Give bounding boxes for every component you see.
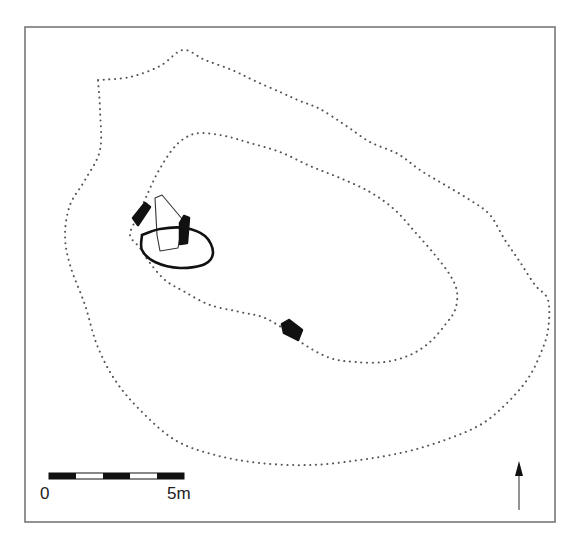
scale-bar (49, 473, 184, 479)
scale-label-end: 5m (167, 485, 191, 502)
plan-frame (25, 27, 555, 522)
north-arrow-head (515, 461, 523, 476)
figure-caption-clipped (0, 533, 582, 540)
outer-contour (65, 50, 549, 465)
site-plan (0, 0, 582, 540)
contour-lines (65, 50, 549, 465)
scale-bar-segment (49, 473, 76, 479)
black-stone-east (180, 216, 189, 244)
scale-bar-segment (157, 473, 184, 479)
stone-features (133, 195, 302, 340)
black-stone-south (282, 320, 302, 340)
scale-label-start: 0 (40, 485, 49, 502)
black-stone-west (133, 203, 150, 225)
scale-bar-segment (103, 473, 130, 479)
north-arrow-icon (515, 461, 523, 510)
